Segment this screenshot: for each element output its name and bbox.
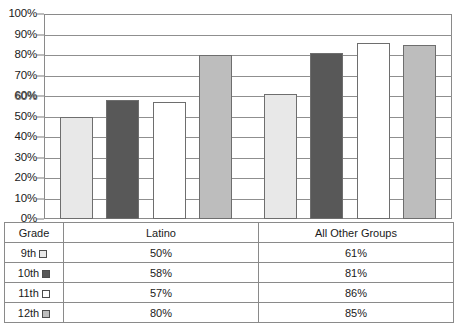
- bar: [60, 117, 93, 220]
- value-cell: 81%: [259, 263, 454, 283]
- grade-cell: 10th: [5, 263, 64, 283]
- grade-cell: 9th: [5, 243, 64, 263]
- grade-label: 12th: [18, 307, 39, 319]
- bar: [403, 45, 436, 219]
- y-axis-tick-mark: [37, 116, 44, 117]
- table-row: 10th58%81%: [5, 263, 454, 283]
- plot-area: [44, 14, 452, 219]
- data-table: GradeLatinoAll Other Groups9th50%61%10th…: [4, 222, 454, 323]
- bar: [264, 94, 297, 219]
- y-axis-tick-mark: [37, 219, 44, 220]
- bar-group: [248, 14, 452, 219]
- y-axis: 100%90%80%70%60%50%40%30%20%10%0%: [0, 14, 44, 219]
- white-swatch: [42, 290, 50, 298]
- grade-cell: 12th: [5, 303, 64, 323]
- table-header-row: GradeLatinoAll Other Groups: [5, 223, 454, 243]
- y-axis-tick-mark: [37, 157, 44, 158]
- value-cell: 57%: [64, 283, 259, 303]
- y-axis-tick-mark: [37, 96, 44, 97]
- bar-group: [44, 14, 248, 219]
- grade-label: 11th: [18, 287, 39, 299]
- grade-column-header: Grade: [5, 223, 64, 243]
- table-row: 9th50%61%: [5, 243, 454, 263]
- table-row: 12th80%85%: [5, 303, 454, 323]
- y-axis-tick-label: 40%: [15, 131, 37, 143]
- y-axis-tick-label: 30%: [15, 152, 37, 164]
- medium-gray-swatch: [42, 310, 50, 318]
- y-axis-tick-mark: [37, 198, 44, 199]
- y-axis-tick-mark: [37, 14, 44, 15]
- category-column-header: Latino: [64, 223, 259, 243]
- y-axis-tick-mark: [37, 55, 44, 56]
- grade-label: 10th: [18, 267, 39, 279]
- value-cell: 80%: [64, 303, 259, 323]
- y-axis-tick-label: 60%: [15, 90, 37, 102]
- y-axis-tick-label: 20%: [15, 172, 37, 184]
- value-cell: 86%: [259, 283, 454, 303]
- y-axis-tick-label: 10%: [15, 193, 37, 205]
- y-axis-tick-label: 50%: [15, 111, 37, 123]
- bar: [153, 102, 186, 219]
- y-axis-tick-mark: [37, 178, 44, 179]
- grade-cell: 11th: [5, 283, 64, 303]
- value-cell: 50%: [64, 243, 259, 263]
- grade-label: 9th: [21, 247, 36, 259]
- y-axis-tick-label: 100%: [8, 8, 37, 20]
- dark-gray-swatch: [42, 270, 50, 278]
- y-axis-tick-mark: [37, 137, 44, 138]
- table-row: 11th57%86%: [5, 283, 454, 303]
- bar: [106, 100, 139, 219]
- value-cell: 58%: [64, 263, 259, 283]
- y-axis-tick-mark: [37, 34, 44, 35]
- value-cell: 61%: [259, 243, 454, 263]
- table-body: GradeLatinoAll Other Groups9th50%61%10th…: [5, 223, 454, 323]
- y-axis-tick-label: 90%: [15, 29, 37, 41]
- bar: [199, 55, 232, 219]
- bar: [310, 53, 343, 219]
- y-axis-tick-mark: [37, 75, 44, 76]
- y-axis-tick-label: 70%: [15, 70, 37, 82]
- light-gray-swatch: [39, 250, 47, 258]
- bar: [357, 43, 390, 219]
- value-cell: 85%: [259, 303, 454, 323]
- category-column-header: All Other Groups: [259, 223, 454, 243]
- y-axis-tick-label: 80%: [15, 49, 37, 61]
- bar-chart-figure: 100%90%80%70%60%50%40%30%20%10%0% GradeL…: [0, 0, 462, 336]
